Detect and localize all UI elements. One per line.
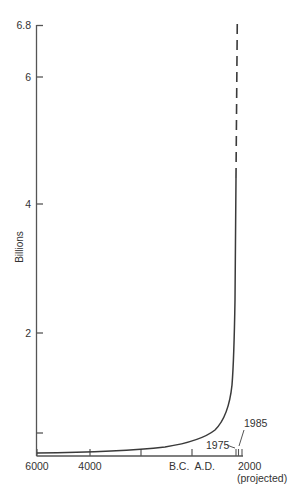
annotation-1985: 1985 [244,417,268,429]
x-label-4000: 4000 [78,460,102,472]
y-label-6: 6 [25,71,31,83]
y-axis-title: Billions [14,231,25,263]
annotation-1975: 1975 [206,439,230,451]
population-growth-chart: 6.8 6 4 2 Billions 6000 4000 B.C. A.D. 2… [0,0,296,501]
annotation-1985-leader [239,430,244,446]
y-label-6-8: 6.8 [16,19,31,31]
x-label-bc-ad: B.C. A.D. [169,460,215,472]
x-label-2000: 2000 [238,460,262,472]
x-label-projected: (projected) [237,472,287,484]
x-label-6000: 6000 [25,460,49,472]
y-label-4: 4 [25,198,31,210]
population-curve-projected [236,20,237,178]
population-curve-actual [37,178,236,453]
y-label-2: 2 [25,327,31,339]
